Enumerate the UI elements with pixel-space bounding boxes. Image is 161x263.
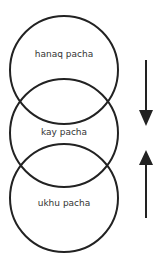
up-arrow-icon xyxy=(139,150,153,218)
down-arrow-icon xyxy=(139,60,153,126)
label-kay-pacha: kay pacha xyxy=(41,127,87,137)
label-ukhu-pacha: ukhu pacha xyxy=(38,198,91,208)
label-hanaq-pacha: hanaq pacha xyxy=(35,49,93,59)
three-worlds-diagram: hanaq pacha kay pacha ukhu pacha xyxy=(0,0,161,263)
circle-hanaq-pacha xyxy=(10,16,118,124)
